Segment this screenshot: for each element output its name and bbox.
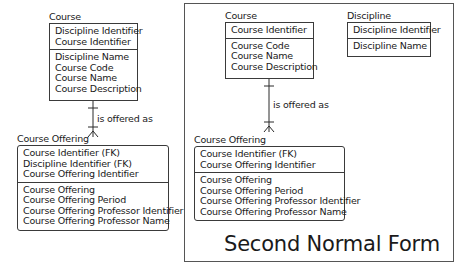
attribute: Course Description [55, 84, 133, 95]
discipline-title: Discipline [347, 10, 391, 21]
attribute: Course Identifier [55, 37, 133, 48]
left-course-attribute-section: Discipline Name Course Code Course Name … [50, 49, 137, 96]
right-course-title: Course [225, 10, 257, 21]
right-course-offering-key-section: Course Identifier (FK) Course Offering I… [195, 147, 344, 172]
attribute: Discipline Identifier [353, 25, 426, 36]
attribute: Course Description [231, 62, 309, 73]
left-course-title: Course [49, 11, 81, 22]
right-course-offering-title: Course Offering [194, 134, 266, 145]
attribute: Course Offering Professor Name [23, 216, 164, 227]
discipline-key-section: Discipline Identifier [348, 23, 430, 38]
attribute: Discipline Name [353, 41, 426, 52]
right-course-key-section: Course Identifier [226, 23, 313, 38]
right-course-offering-entity: Course Identifier (FK) Course Offering I… [194, 146, 345, 221]
attribute: Discipline Identifier [55, 26, 133, 37]
left-course-offering-entity: Course Identifier (FK) Discipline Identi… [17, 145, 169, 231]
right-course-offering-attribute-section: Course Offering Course Offering Period C… [195, 172, 344, 219]
left-course-entity: Discipline Identifier Course Identifier … [49, 23, 138, 101]
left-course-offering-key-section: Course Identifier (FK) Discipline Identi… [18, 146, 168, 182]
attribute: Course Offering Professor Identifier [200, 196, 340, 207]
attribute: Course Identifier [231, 25, 309, 36]
right-course-entity: Course Identifier Course Code Course Nam… [225, 22, 314, 79]
attribute: Course Offering Professor Name [200, 207, 340, 218]
right-course-attribute-section: Course Code Course Name Course Descripti… [226, 38, 313, 75]
attribute: Course Offering Period [23, 195, 164, 206]
attribute: Course Identifier (FK) [23, 148, 164, 159]
left-course-key-section: Discipline Identifier Course Identifier [50, 24, 137, 49]
left-course-offering-title: Course Offering [17, 133, 89, 144]
attribute: Course Offering [200, 175, 340, 186]
attribute: Discipline Name [55, 52, 133, 63]
attribute: Course Identifier (FK) [200, 149, 340, 160]
discipline-entity: Discipline Identifier Discipline Name [347, 22, 431, 57]
discipline-attribute-section: Discipline Name [348, 38, 430, 54]
attribute: Course Offering Identifier [200, 160, 340, 171]
attribute: Course Name [231, 51, 309, 62]
attribute: Course Offering Identifier [23, 169, 164, 180]
attribute: Course Name [55, 73, 133, 84]
left-course-offering-attribute-section: Course Offering Course Offering Period C… [18, 182, 168, 229]
diagram-caption: Second Normal Form [224, 232, 440, 256]
right-relationship-label: is offered as [273, 99, 329, 110]
left-relationship-label: is offered as [97, 113, 153, 124]
